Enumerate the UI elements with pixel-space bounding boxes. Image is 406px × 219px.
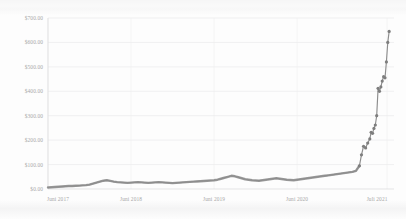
data-point-marker — [368, 137, 371, 140]
data-point-marker — [388, 30, 391, 33]
y-tick-label: $300.00 — [25, 113, 43, 119]
data-point-marker — [375, 114, 378, 117]
data-point-marker — [386, 41, 389, 44]
data-point-markers — [358, 30, 391, 168]
x-tick-label: Juli 2021 — [367, 196, 388, 202]
data-point-marker — [376, 87, 379, 90]
y-tick-label: $0.00 — [30, 186, 43, 192]
x-tick-label: Juni 2018 — [120, 196, 142, 202]
data-point-marker — [374, 123, 377, 126]
data-point-marker — [371, 132, 374, 135]
y-axis-tick-labels: $700.00$600.00$500.00$400.00$300.00$200.… — [25, 15, 43, 192]
series-line-dense — [48, 166, 359, 188]
data-point-marker — [364, 146, 367, 149]
y-tick-label: $700.00 — [25, 15, 43, 21]
y-tick-label: $500.00 — [25, 64, 43, 70]
data-point-marker — [378, 90, 381, 93]
data-point-marker — [372, 127, 375, 130]
data-point-marker — [385, 60, 388, 63]
data-point-marker — [379, 85, 382, 88]
y-tick-label: $600.00 — [25, 39, 43, 45]
data-point-marker — [358, 164, 361, 167]
data-point-marker — [360, 153, 363, 156]
y-tick-label: $400.00 — [25, 88, 43, 94]
vertical-gridlines — [48, 18, 387, 189]
x-tick-label: Juni 2017 — [47, 196, 69, 202]
axis-lines — [48, 18, 394, 189]
y-tick-label: $100.00 — [25, 162, 43, 168]
x-tick-label: Juni 2019 — [203, 196, 225, 202]
data-series-line — [48, 31, 389, 187]
horizontal-gridlines — [48, 18, 394, 165]
x-axis-tick-labels: Juni 2017Juni 2018Juni 2019Juni 2020Juli… — [47, 196, 388, 202]
line-chart: $700.00$600.00$500.00$400.00$300.00$200.… — [0, 0, 406, 219]
series-line-path — [48, 31, 389, 187]
y-tick-label: $200.00 — [25, 137, 43, 143]
chart-container: $700.00$600.00$500.00$400.00$300.00$200.… — [0, 0, 406, 219]
x-tick-label: Juni 2020 — [286, 196, 308, 202]
data-point-marker — [381, 79, 384, 82]
data-point-marker — [366, 141, 369, 144]
data-point-marker — [383, 76, 386, 79]
